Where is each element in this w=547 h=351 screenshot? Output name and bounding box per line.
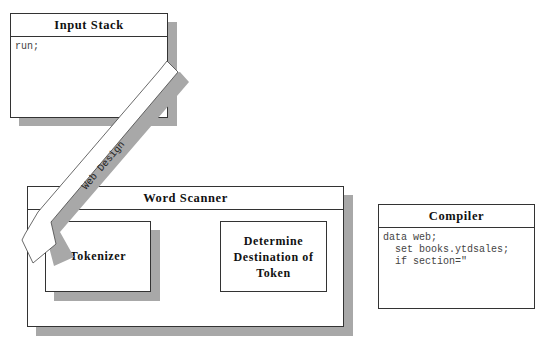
web-design-arrow: Web Design	[0, 0, 547, 351]
arrow-shadow	[46, 72, 189, 266]
